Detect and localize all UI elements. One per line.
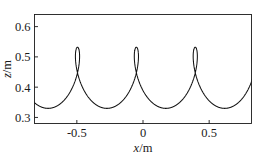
y-tick-labels: 0.30.40.50.6 [15,20,31,125]
y-tick-label: 0.4 [15,81,31,95]
y-tick-label: 0.6 [15,20,31,34]
x-axis-label: x/m [133,141,153,155]
x-tick-label: 0 [140,126,146,140]
x-tick-marks [77,120,209,124]
trochoid-curve [0,47,261,108]
x-tick-label: 0.5 [201,126,217,140]
y-axis-label: z/m [0,60,14,79]
x-tick-labels: -0.500.5 [67,126,217,140]
x-tick-label: -0.5 [67,126,87,140]
trochoid-plot: -0.500.5 0.30.40.50.6 x/m z/m [0,0,261,160]
y-tick-label: 0.5 [15,50,31,64]
y-tick-label: 0.3 [15,111,31,125]
figure-container: -0.500.5 0.30.40.50.6 x/m z/m [0,0,261,160]
